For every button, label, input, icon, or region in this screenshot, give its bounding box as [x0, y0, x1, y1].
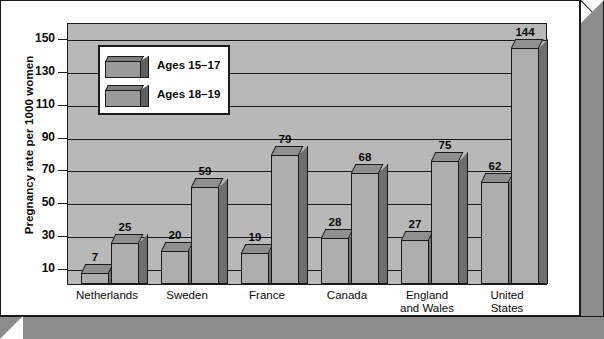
bar-top-face [481, 173, 513, 182]
bar-top-face [191, 178, 223, 187]
bar [401, 231, 429, 284]
category-label-line: States [459, 302, 555, 315]
bar-top-face [111, 234, 143, 243]
bar-value-label: 59 [185, 165, 225, 177]
bar [111, 234, 139, 284]
bar-front-face [431, 161, 459, 284]
y-tick-mark [58, 39, 67, 40]
bar-value-label: 68 [345, 151, 385, 163]
bar-value-label: 75 [425, 139, 465, 151]
bar-front-face [401, 240, 429, 284]
gridline [68, 40, 546, 41]
y-tick: 10 [1, 269, 67, 270]
y-tick-label: 130 [35, 64, 55, 78]
bar [271, 146, 299, 284]
bar [191, 178, 219, 284]
chart-canvas: Pregnancy rate per 1000 women 1030507090… [0, 0, 580, 316]
bar-value-label: 144 [505, 26, 545, 38]
legend-label: Ages 15–17 [157, 59, 220, 71]
bar-top-face [161, 242, 193, 251]
y-tick: 70 [1, 170, 67, 171]
bar-front-face [481, 182, 509, 284]
legend-entry-ages-18-19: Ages 18–19 [105, 82, 229, 109]
bar-side-face [459, 152, 468, 284]
bar [241, 244, 269, 284]
bar-top-face [241, 244, 273, 253]
bar-front-face [271, 155, 299, 284]
bar-top-face [431, 152, 463, 161]
bar [81, 264, 109, 284]
gridline [68, 139, 546, 140]
y-tick-label: 150 [35, 31, 55, 45]
bar-top-face [511, 39, 543, 48]
bar-value-label: 28 [315, 216, 355, 228]
bar-side-face [299, 146, 308, 284]
y-tick-label: 90 [42, 130, 55, 144]
category-label: UnitedStates [459, 289, 555, 315]
bar-value-label: 7 [75, 251, 115, 263]
bar [321, 229, 349, 284]
y-tick: 90 [1, 138, 67, 139]
bar [161, 242, 189, 284]
legend-label: Ages 18–19 [157, 88, 220, 100]
bar-front-face [351, 173, 379, 284]
y-tick-label: 10 [42, 261, 55, 275]
bar-side-face [219, 178, 228, 284]
y-tick-mark [58, 236, 67, 237]
bar [431, 152, 459, 284]
chart-legend: Ages 15–17 Ages 18–19 [98, 45, 230, 115]
y-tick: 110 [1, 105, 67, 106]
y-tick-label: 110 [36, 97, 55, 111]
bar-value-label: 20 [155, 229, 195, 241]
bar [351, 164, 379, 284]
figure-frame: Pregnancy rate per 1000 women 1030507090… [0, 0, 604, 339]
bar-side-face [379, 164, 388, 284]
y-tick: 130 [1, 72, 67, 73]
legend-entry-ages-15-17: Ages 15–17 [105, 53, 229, 80]
bar-front-face [161, 251, 189, 284]
y-tick: 30 [1, 236, 67, 237]
bar [481, 173, 509, 284]
y-tick-mark [58, 72, 67, 73]
y-tick-label: 50 [42, 195, 55, 209]
bar-top-face [271, 146, 303, 155]
bar-top-face [351, 164, 383, 173]
legend-swatch-icon [105, 56, 150, 78]
bar-value-label: 79 [265, 133, 305, 145]
bar-value-label: 62 [475, 160, 515, 172]
bar-value-label: 19 [235, 231, 275, 243]
bar-side-face [139, 234, 148, 284]
y-tick-label: 70 [42, 162, 55, 176]
bar-value-label: 27 [395, 218, 435, 230]
frame-bevel-bottom [0, 316, 604, 339]
category-label-line: United [459, 289, 555, 302]
bar-front-face [191, 187, 219, 284]
bar [511, 39, 539, 284]
bar-side-face [539, 39, 548, 284]
y-tick-label: 30 [42, 228, 55, 242]
bar-front-face [321, 238, 349, 284]
y-tick-mark [58, 269, 67, 270]
y-axis-ticks: 1030507090110130150 [1, 23, 67, 285]
bar-value-label: 25 [105, 221, 145, 233]
bar-top-face [81, 264, 113, 273]
y-tick-mark [58, 203, 67, 204]
legend-swatch-icon [105, 85, 150, 107]
y-tick-mark [58, 105, 67, 106]
y-tick: 50 [1, 203, 67, 204]
bar-top-face [321, 229, 353, 238]
bar-front-face [511, 48, 539, 284]
bar-front-face [111, 243, 139, 284]
bar-top-face [401, 231, 433, 240]
bar-front-face [81, 273, 109, 284]
y-tick-mark [58, 138, 67, 139]
frame-bevel-right [580, 0, 604, 339]
y-tick: 150 [1, 39, 67, 40]
bar-front-face [241, 253, 269, 284]
y-tick-mark [58, 170, 67, 171]
